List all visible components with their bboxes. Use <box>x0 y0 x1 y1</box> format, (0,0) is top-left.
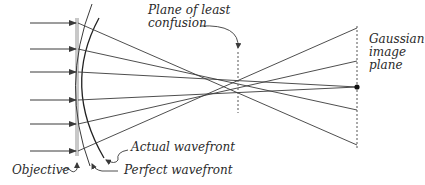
label-gaussian-image-plane: Gaussian image plane <box>369 33 425 72</box>
actual-wavefront-pointer <box>106 150 128 163</box>
actual-wavefront <box>82 18 104 158</box>
label-actual-wavefront: Actual wavefront <box>131 141 235 154</box>
incoming-rays <box>30 23 76 151</box>
label-plane-of-least-confusion: Plane of least confusion <box>148 4 230 30</box>
refracted-rays <box>78 23 357 151</box>
focus-point <box>354 84 359 89</box>
label-perfect-wavefront: Perfect wavefront <box>124 164 233 177</box>
label-objective: Objective <box>12 164 70 177</box>
perfect-wavefront-pointer <box>92 164 118 171</box>
